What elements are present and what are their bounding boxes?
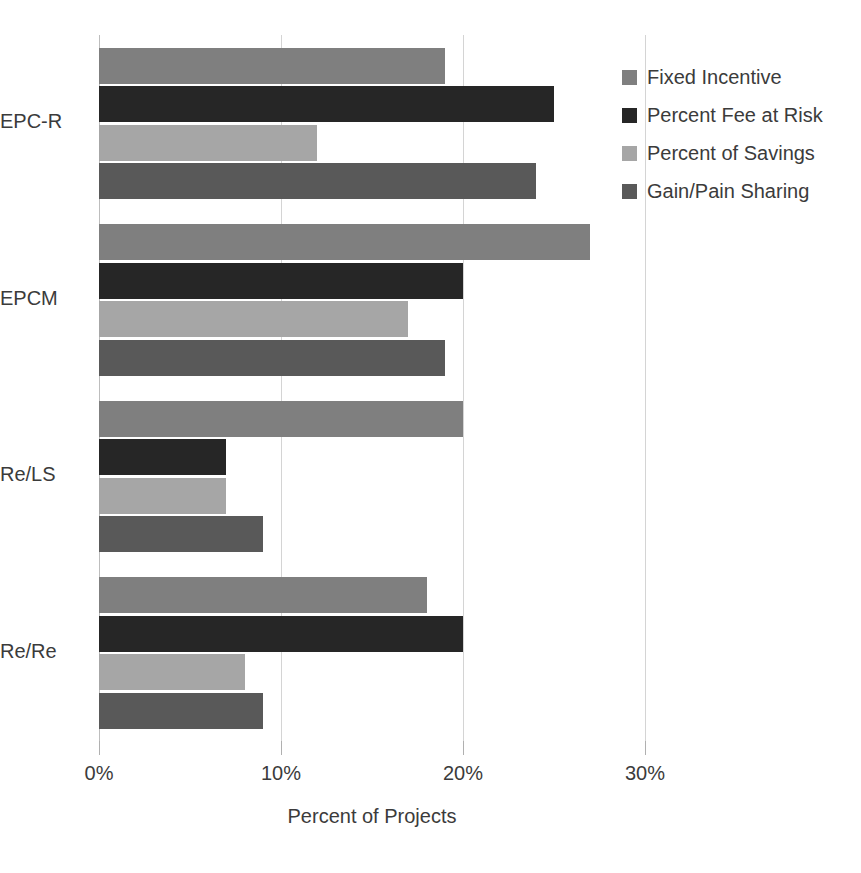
bar-fill <box>99 48 445 84</box>
x-tick-label: 30% <box>625 762 665 785</box>
bar[interactable] <box>99 654 245 690</box>
bar-fill <box>99 224 590 260</box>
bar-group <box>99 388 645 565</box>
bar-fill <box>99 125 317 161</box>
bar[interactable] <box>99 86 554 122</box>
x-tick-label: 10% <box>261 762 301 785</box>
x-tick-label: 0% <box>85 762 114 785</box>
bar[interactable] <box>99 301 408 337</box>
x-tick-0 <box>99 741 100 755</box>
bar-group <box>99 565 645 742</box>
x-axis-title: Percent of Projects <box>99 805 645 828</box>
bar-fill <box>99 693 263 729</box>
legend-swatch-icon <box>622 146 637 161</box>
legend-label: Gain/Pain Sharing <box>647 180 809 203</box>
bar[interactable] <box>99 48 445 84</box>
bar-fill <box>99 478 226 514</box>
bar-chart: EPC-REPCMRe/LSRe/Re 0%10%20%30% Percent … <box>0 0 861 873</box>
category-axis: EPC-REPCMRe/LSRe/Re <box>0 35 88 741</box>
bar[interactable] <box>99 577 427 613</box>
bar[interactable] <box>99 516 263 552</box>
bar[interactable] <box>99 340 445 376</box>
x-tick-30 <box>645 741 646 755</box>
bar-fill <box>99 516 263 552</box>
bar[interactable] <box>99 693 263 729</box>
category-label: EPC-R <box>0 110 88 133</box>
bar-fill <box>99 577 427 613</box>
legend: Fixed IncentivePercent Fee at RiskPercen… <box>622 58 852 210</box>
bar-fill <box>99 616 463 652</box>
bar-fill <box>99 654 245 690</box>
x-tick-label: 20% <box>443 762 483 785</box>
bar-fill <box>99 439 226 475</box>
legend-label: Percent Fee at Risk <box>647 104 823 127</box>
bar[interactable] <box>99 163 536 199</box>
x-tick-20 <box>463 741 464 755</box>
legend-item[interactable]: Percent Fee at Risk <box>622 96 852 134</box>
category-label: EPCM <box>0 287 88 310</box>
legend-swatch-icon <box>622 70 637 85</box>
bars-layer <box>99 35 645 741</box>
bar-fill <box>99 401 463 437</box>
legend-item[interactable]: Gain/Pain Sharing <box>622 172 852 210</box>
legend-label: Percent of Savings <box>647 142 815 165</box>
bar-fill <box>99 263 463 299</box>
bar[interactable] <box>99 478 226 514</box>
bar-group <box>99 212 645 389</box>
legend-label: Fixed Incentive <box>647 66 782 89</box>
bar-group <box>99 35 645 212</box>
bar[interactable] <box>99 224 590 260</box>
bar[interactable] <box>99 616 463 652</box>
bar[interactable] <box>99 401 463 437</box>
bar[interactable] <box>99 263 463 299</box>
bar-fill <box>99 86 554 122</box>
plot-area <box>99 35 645 741</box>
legend-item[interactable]: Fixed Incentive <box>622 58 852 96</box>
category-label: Re/LS <box>0 463 88 486</box>
legend-swatch-icon <box>622 108 637 123</box>
legend-item[interactable]: Percent of Savings <box>622 134 852 172</box>
bar[interactable] <box>99 439 226 475</box>
bar-fill <box>99 301 408 337</box>
x-tick-10 <box>281 741 282 755</box>
legend-swatch-icon <box>622 184 637 199</box>
bar[interactable] <box>99 125 317 161</box>
bar-fill <box>99 163 536 199</box>
category-label: Re/Re <box>0 640 88 663</box>
bar-fill <box>99 340 445 376</box>
